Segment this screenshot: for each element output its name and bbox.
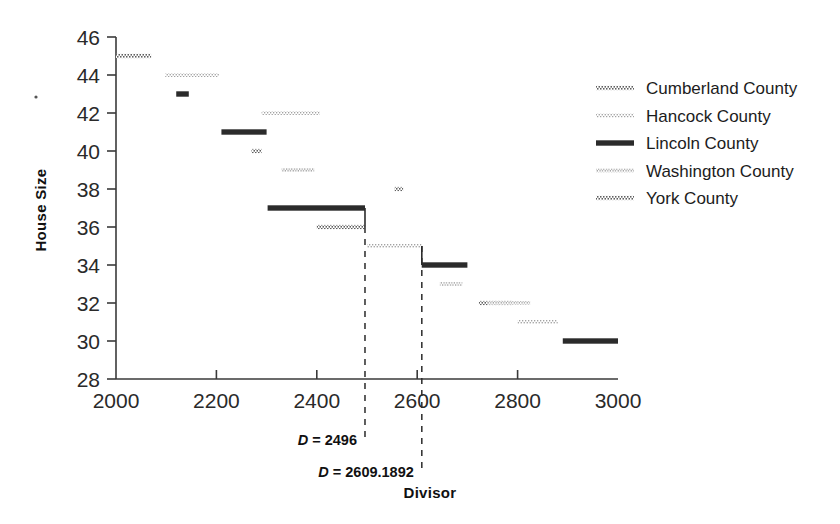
x-tick-label: 2200 bbox=[193, 389, 240, 412]
series-york-county bbox=[252, 149, 404, 191]
legend-swatch-dotted-light bbox=[596, 114, 634, 118]
data-series bbox=[116, 54, 618, 344]
x-axis-ticks bbox=[216, 370, 517, 379]
y-tick-label: 28 bbox=[77, 368, 100, 391]
divisor-annotations: D = 2496D = 2609.1892 bbox=[298, 227, 422, 480]
data-segment bbox=[440, 282, 463, 286]
data-segment bbox=[252, 149, 262, 153]
data-segment bbox=[518, 320, 558, 324]
legend-swatch-solid-heavy bbox=[596, 140, 634, 145]
data-segment bbox=[221, 129, 266, 134]
data-segment bbox=[422, 262, 468, 267]
y-tick-label: 40 bbox=[77, 140, 100, 163]
divisor-2496-label: D = 2496 bbox=[298, 432, 357, 448]
y-tick-label: 34 bbox=[77, 254, 101, 277]
legend-swatch-dotted-medium bbox=[596, 196, 634, 200]
y-tick-label: 32 bbox=[77, 292, 100, 315]
series-hancock-county bbox=[165, 73, 558, 324]
y-tick-label: 30 bbox=[77, 330, 100, 353]
data-segment bbox=[395, 187, 404, 191]
y-axis-ticks bbox=[107, 37, 116, 379]
legend-label: Cumberland County bbox=[646, 79, 798, 98]
y-axis-title: House Size bbox=[32, 168, 49, 251]
data-segment bbox=[487, 301, 530, 305]
divisor-2609-label: D = 2609.1892 bbox=[318, 464, 414, 480]
x-tick-label: 2000 bbox=[93, 389, 140, 412]
x-tick-label: 2400 bbox=[293, 389, 340, 412]
x-axis-title: Divisor bbox=[404, 484, 457, 501]
data-segment bbox=[282, 168, 315, 172]
legend-swatch-dotted-medium bbox=[596, 86, 634, 90]
scan-speck bbox=[34, 95, 37, 98]
x-tick-label: 2800 bbox=[494, 389, 541, 412]
data-segment bbox=[176, 91, 189, 96]
legend-swatch-dotted-fine bbox=[596, 169, 634, 173]
chart-figure: 28303234363840424446 2000220024002600280… bbox=[0, 0, 840, 524]
data-segment bbox=[367, 244, 422, 248]
data-segment bbox=[268, 205, 365, 210]
y-tick-label: 46 bbox=[77, 26, 100, 49]
series-lincoln-county bbox=[176, 91, 618, 343]
data-segment bbox=[317, 225, 365, 229]
y-tick-label: 44 bbox=[77, 64, 101, 87]
legend-item[interactable]: Cumberland County bbox=[596, 79, 798, 98]
legend-label: York County bbox=[646, 189, 738, 208]
legend-label: Lincoln County bbox=[646, 134, 759, 153]
y-tick-label: 36 bbox=[77, 216, 100, 239]
y-axis-tick-labels: 28303234363840424446 bbox=[77, 26, 101, 391]
data-segment bbox=[165, 73, 219, 77]
data-segment bbox=[116, 54, 151, 58]
legend-label: Hancock County bbox=[646, 107, 771, 126]
x-tick-label: 3000 bbox=[595, 389, 642, 412]
x-axis-tick-labels: 200022002400260028003000 bbox=[93, 389, 642, 412]
legend-item[interactable]: Washington County bbox=[596, 162, 794, 181]
x-tick-label: 2600 bbox=[394, 389, 441, 412]
legend-item[interactable]: Lincoln County bbox=[596, 134, 759, 153]
legend: Cumberland CountyHancock CountyLincoln C… bbox=[596, 79, 798, 208]
legend-item[interactable]: York County bbox=[596, 189, 738, 208]
legend-label: Washington County bbox=[646, 162, 794, 181]
axes bbox=[116, 37, 618, 379]
series-washington-county bbox=[282, 168, 530, 305]
y-tick-label: 42 bbox=[77, 102, 100, 125]
legend-item[interactable]: Hancock County bbox=[596, 107, 771, 126]
data-segment bbox=[262, 111, 320, 115]
data-segment bbox=[563, 338, 618, 343]
house-size-divisor-chart: 28303234363840424446 2000220024002600280… bbox=[0, 0, 840, 524]
y-tick-label: 38 bbox=[77, 178, 100, 201]
